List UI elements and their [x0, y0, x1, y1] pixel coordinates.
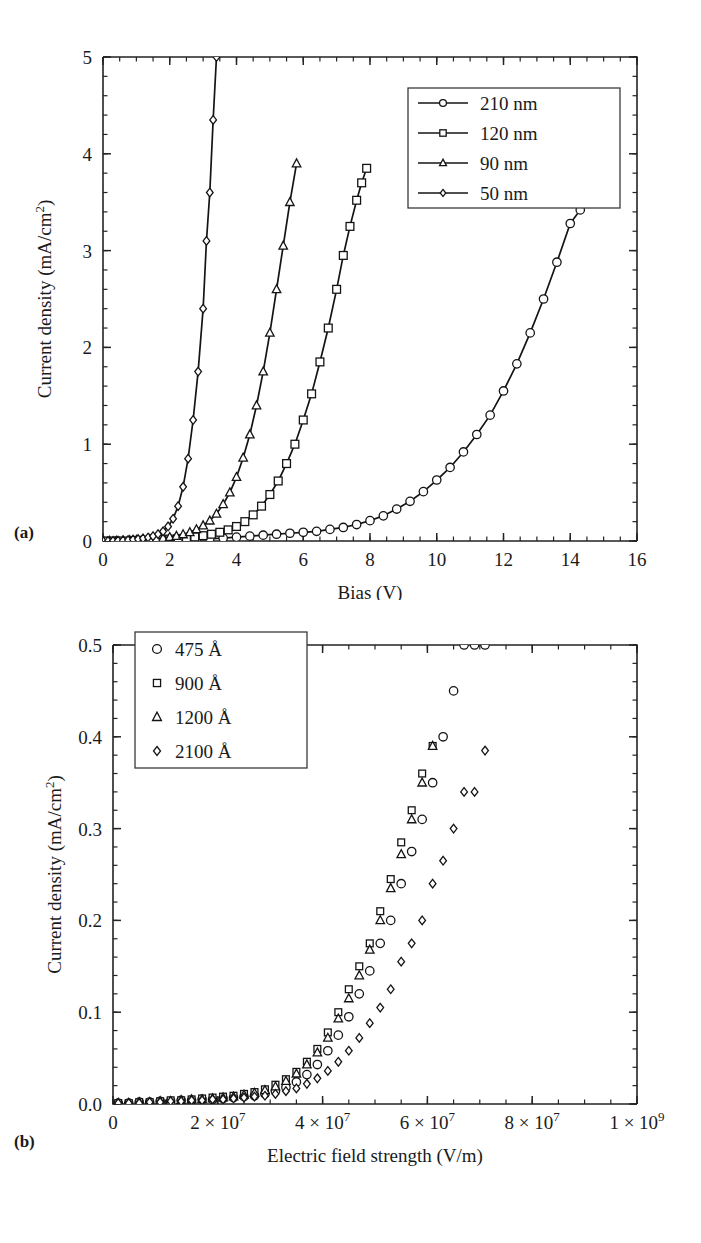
data-marker-square — [274, 477, 282, 485]
data-marker-square — [398, 839, 405, 846]
y-axis-title: Current density (mA/cm2) — [42, 775, 66, 974]
data-marker-square — [356, 963, 363, 970]
data-marker-diamond — [180, 482, 187, 491]
y-axis-title-group: Current density (mA/cm2) — [32, 200, 56, 399]
x-axis-title: Bias (V) — [338, 582, 403, 600]
chart-legend: 475 Å900 Å1200 Å2100 Å — [135, 632, 307, 768]
series-4 — [100, 53, 220, 546]
data-marker-diamond — [200, 304, 207, 313]
data-marker-circle — [446, 463, 454, 471]
data-marker-triangle — [279, 241, 287, 249]
data-marker-diamond — [419, 916, 426, 925]
data-marker-triangle — [219, 500, 227, 508]
data-marker-circle — [470, 641, 478, 649]
x-tick-label: 1 × 109 — [609, 1109, 664, 1133]
data-marker-diamond — [398, 957, 405, 966]
data-marker-square — [224, 526, 232, 534]
data-marker-square — [249, 511, 257, 519]
data-marker-circle — [407, 847, 415, 855]
data-marker-circle — [473, 430, 481, 438]
x-tick-label: 10 — [427, 549, 446, 570]
data-marker-triangle — [418, 778, 426, 786]
data-marker-circle — [303, 1070, 311, 1078]
data-marker-square — [291, 440, 299, 448]
data-marker-triangle — [266, 328, 274, 336]
data-marker-circle — [312, 527, 320, 535]
x-tick-label: 4 × 107 — [295, 1109, 351, 1133]
data-marker-square — [324, 324, 332, 332]
x-tick-label: 0 — [108, 1112, 118, 1133]
y-tick-label: 0.4 — [78, 727, 102, 748]
data-marker-diamond — [335, 1057, 342, 1066]
data-marker-square — [346, 223, 354, 231]
data-marker-circle — [299, 528, 307, 536]
x-tick-label: 6 — [299, 549, 309, 570]
series-2 — [115, 743, 436, 1107]
data-marker-diamond — [185, 454, 192, 463]
legend-label: 900 Å — [175, 673, 222, 694]
data-marker-triangle — [397, 850, 405, 858]
data-marker-square — [408, 807, 415, 814]
data-marker-circle — [334, 1031, 342, 1039]
data-marker-circle — [526, 329, 534, 337]
data-marker-circle — [345, 1013, 353, 1021]
data-marker-circle — [366, 967, 374, 975]
data-marker-circle — [440, 100, 447, 107]
data-marker-circle — [460, 641, 468, 649]
legend-label: 2100 Å — [175, 741, 232, 762]
chart-b-svg: 02 × 1074 × 1076 × 1078 × 1071 × 1090.00… — [0, 600, 701, 1243]
data-marker-circle — [419, 487, 427, 495]
data-marker-diamond — [190, 416, 197, 425]
data-marker-diamond — [203, 237, 210, 246]
data-marker-diamond — [206, 188, 213, 197]
data-marker-circle — [428, 779, 436, 787]
y-tick-label: 0.1 — [78, 1002, 102, 1023]
x-tick-label: 6 × 107 — [400, 1109, 456, 1133]
data-marker-diamond — [450, 824, 457, 833]
data-marker-diamond — [440, 856, 447, 865]
data-marker-square — [358, 179, 366, 187]
chart-a-svg: 0246810121416012345Bias (V)Current densi… — [0, 0, 701, 600]
y-tick-label: 5 — [83, 47, 93, 68]
data-marker-circle — [499, 387, 507, 395]
y-tick-label: 0.0 — [78, 1094, 102, 1115]
y-axis-title: Current density (mA/cm2) — [32, 200, 56, 399]
data-marker-diamond — [461, 788, 468, 797]
data-marker-circle — [481, 641, 489, 649]
legend-label: 210 nm — [480, 93, 538, 114]
data-marker-square — [363, 164, 371, 172]
data-marker-circle — [459, 448, 467, 456]
chart-panel-b: 02 × 1074 × 1076 × 1078 × 1071 × 1090.00… — [0, 600, 701, 1243]
data-marker-circle — [246, 532, 254, 540]
data-marker-square — [266, 491, 274, 499]
data-marker-circle — [379, 512, 387, 520]
data-marker-triangle — [252, 401, 260, 409]
data-marker-diamond — [314, 1074, 321, 1083]
data-marker-circle — [393, 505, 401, 513]
data-marker-square — [233, 523, 241, 531]
legend-label: 1200 Å — [175, 707, 232, 728]
panel-b-label: (b) — [14, 1132, 35, 1152]
data-marker-diamond — [195, 367, 202, 376]
data-marker-diamond — [429, 879, 436, 888]
y-tick-label: 4 — [83, 144, 93, 165]
legend-label: 120 nm — [480, 123, 538, 144]
data-marker-triangle — [407, 815, 415, 823]
data-marker-diamond — [471, 788, 478, 797]
legend-label: 50 nm — [480, 183, 528, 204]
y-tick-label: 3 — [83, 241, 93, 262]
data-marker-circle — [449, 687, 457, 695]
series-2 — [99, 164, 370, 544]
y-axis-title-group: Current density (mA/cm2) — [42, 775, 66, 974]
data-marker-circle — [566, 219, 574, 227]
figure-page: 0246810121416012345Bias (V)Current densi… — [0, 0, 701, 1243]
y-tick-label: 0.3 — [78, 819, 102, 840]
x-tick-label: 14 — [561, 549, 581, 570]
x-tick-label: 2 — [165, 549, 175, 570]
data-marker-square — [283, 460, 291, 468]
data-marker-square — [316, 358, 324, 366]
data-marker-triangle — [239, 453, 247, 461]
data-marker-diamond — [175, 502, 182, 511]
data-marker-triangle — [232, 473, 240, 481]
data-marker-square — [339, 252, 347, 260]
